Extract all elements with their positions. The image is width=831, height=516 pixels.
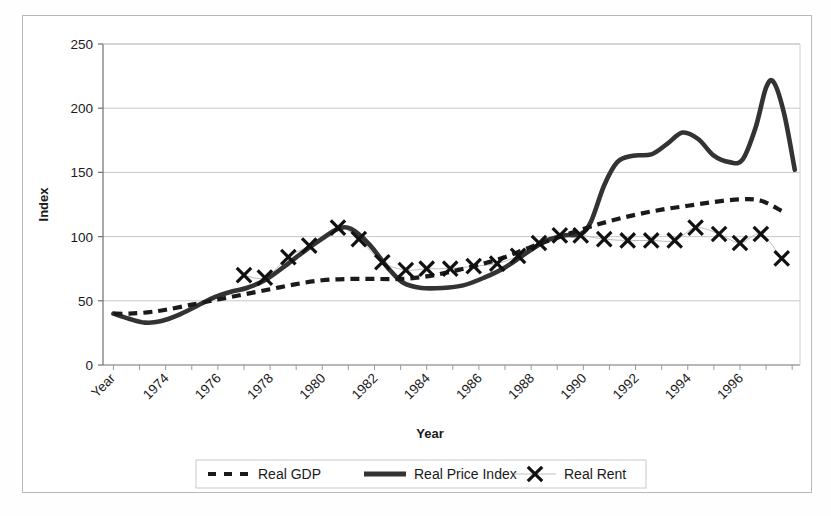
svg-text:1988: 1988 bbox=[505, 371, 537, 403]
legend-label: Real Price Index bbox=[414, 466, 517, 482]
chart-legend: Real GDPReal Price IndexReal Rent bbox=[196, 460, 646, 488]
y-tick-label: 150 bbox=[70, 165, 93, 180]
y-tick-label: 50 bbox=[78, 294, 93, 309]
gridlines-group bbox=[103, 44, 800, 301]
svg-text:1994: 1994 bbox=[662, 370, 694, 402]
x-tick-labels: Year197419761978198019821984198619881990… bbox=[88, 370, 746, 402]
x-tick-label: 1984 bbox=[401, 370, 433, 402]
y-tick-labels: 050100150200250 bbox=[70, 37, 103, 373]
y-tick-label: 250 bbox=[70, 37, 93, 52]
svg-text:1992: 1992 bbox=[610, 371, 642, 403]
real-price-index-line bbox=[113, 80, 794, 323]
axes-group bbox=[103, 44, 800, 365]
svg-text:Year: Year bbox=[88, 370, 118, 400]
x-axis-title: Year bbox=[416, 426, 443, 441]
svg-text:1986: 1986 bbox=[453, 371, 485, 403]
x-tick-label: 1986 bbox=[453, 371, 485, 403]
svg-text:1974: 1974 bbox=[140, 370, 172, 402]
index-line-chart: 050100150200250 Year19741976197819801982… bbox=[0, 0, 831, 516]
svg-text:1976: 1976 bbox=[192, 371, 224, 403]
x-tick-label-origin: Year bbox=[88, 370, 118, 400]
real-rent-x-marker bbox=[490, 256, 504, 270]
real-rent-x-marker bbox=[667, 233, 681, 247]
svg-text:1996: 1996 bbox=[714, 371, 746, 403]
y-axis-title: Index bbox=[36, 187, 51, 222]
x-tick-label: 1992 bbox=[610, 371, 642, 403]
x-tick-label: 1988 bbox=[505, 371, 537, 403]
chart-screenshot: 050100150200250 Year19741976197819801982… bbox=[0, 0, 831, 516]
x-tick-label: 1994 bbox=[662, 370, 694, 402]
real-rent-x-marker bbox=[712, 227, 726, 241]
svg-text:1990: 1990 bbox=[558, 371, 590, 403]
data-series-layer bbox=[113, 80, 794, 323]
x-tick-label: 1978 bbox=[244, 371, 276, 403]
y-tick-label: 200 bbox=[70, 101, 93, 116]
legend-label: Real GDP bbox=[258, 466, 321, 482]
x-tick-label: 1974 bbox=[140, 370, 172, 402]
real-rent-x-marker bbox=[733, 236, 747, 250]
x-tick-marks bbox=[113, 365, 792, 370]
y-tick-label: 0 bbox=[85, 358, 93, 373]
svg-text:1984: 1984 bbox=[401, 370, 433, 402]
real-rent-x-marker bbox=[775, 251, 789, 265]
legend-item: Real Rent bbox=[514, 466, 626, 482]
x-tick-label: 1982 bbox=[349, 371, 381, 403]
svg-text:1978: 1978 bbox=[244, 371, 276, 403]
x-tick-label: 1990 bbox=[558, 371, 590, 403]
y-tick-label: 100 bbox=[70, 230, 93, 245]
real-rent-x-marker bbox=[237, 268, 251, 282]
x-tick-label: 1976 bbox=[192, 371, 224, 403]
x-tick-label: 1980 bbox=[297, 371, 329, 403]
legend-label: Real Rent bbox=[564, 466, 626, 482]
x-tick-label: 1996 bbox=[714, 371, 746, 403]
svg-text:1982: 1982 bbox=[349, 371, 381, 403]
svg-text:1980: 1980 bbox=[297, 371, 329, 403]
